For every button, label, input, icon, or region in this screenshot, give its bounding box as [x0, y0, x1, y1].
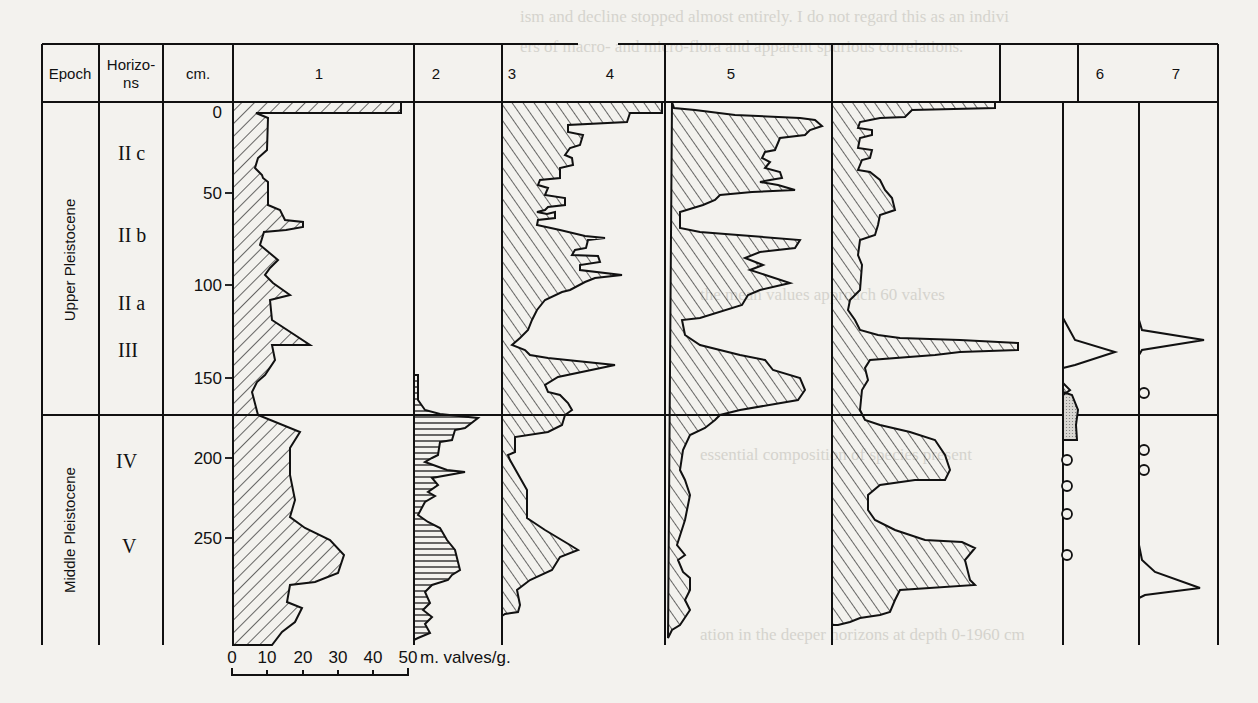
horizon-label: IV — [116, 450, 138, 472]
series-1-profile — [233, 102, 401, 645]
horizon-labels: II c II b II a III IV V — [116, 142, 146, 557]
horizon-label: II c — [118, 142, 145, 164]
header-col-2: 2 — [432, 65, 440, 82]
marker-circle — [1139, 388, 1149, 398]
header-col-5: 5 — [727, 65, 735, 82]
scale-tick: 0 — [227, 648, 236, 667]
series-5-profile — [832, 102, 1018, 645]
header-col-1: 1 — [315, 65, 323, 82]
header-col-4: 4 — [606, 65, 614, 82]
marker-circle — [1062, 455, 1072, 465]
depth-tick: 250 — [194, 529, 222, 548]
header-depth: cm. — [186, 65, 210, 82]
depth-tick: 200 — [194, 449, 222, 468]
scale-tick: 40 — [364, 648, 383, 667]
horizon-label: II b — [118, 224, 146, 246]
header-horizons-line2: ns — [123, 74, 139, 91]
header-horizons-line1: Horizo- — [107, 56, 155, 73]
depth-tick-labels: 0 50 100 150 200 250 — [194, 103, 222, 548]
table-frame — [42, 44, 1218, 645]
depth-axis — [225, 193, 233, 538]
depth-tick: 150 — [194, 369, 222, 388]
epoch-middle-pleistocene: Middle Pleistocene — [61, 467, 78, 593]
series-6-profile — [1062, 102, 1115, 645]
series-3-profile — [502, 102, 662, 645]
depth-tick: 0 — [213, 103, 222, 122]
depth-tick: 100 — [194, 276, 222, 295]
ostracod-diagram: Epoch Horizo- ns cm. 1 2 3 4 5 6 7 Upper… — [0, 0, 1258, 703]
header-col-6: 6 — [1096, 65, 1104, 82]
series-2-profile — [414, 102, 478, 645]
marker-circle — [1139, 445, 1149, 455]
table-header: Epoch Horizo- ns cm. 1 2 3 4 5 6 7 — [49, 56, 1180, 91]
scale-tick: 10 — [258, 648, 277, 667]
header-col-7: 7 — [1172, 65, 1180, 82]
marker-circle — [1062, 509, 1072, 519]
horizon-label: V — [122, 535, 137, 557]
series-7-profile — [1139, 102, 1218, 645]
header-epoch: Epoch — [49, 65, 92, 82]
scale-bar — [232, 668, 408, 675]
epoch-upper-pleistocene: Upper Pleistocene — [61, 199, 78, 322]
horizon-label: III — [118, 339, 138, 361]
marker-circle — [1062, 550, 1072, 560]
scale-tick: 20 — [294, 648, 313, 667]
header-col-3: 3 — [508, 65, 516, 82]
marker-circle — [1139, 465, 1149, 475]
depth-tick: 50 — [203, 184, 222, 203]
scale-unit: m. valves/g. — [420, 648, 511, 667]
scale-tick: 50 — [399, 648, 418, 667]
horizon-label: II a — [118, 292, 145, 314]
marker-circle — [1062, 481, 1072, 491]
scale-bar-labels: 0 10 20 30 40 50 m. valves/g. — [227, 648, 510, 667]
series-4-profile — [665, 102, 822, 645]
scale-tick: 30 — [329, 648, 348, 667]
